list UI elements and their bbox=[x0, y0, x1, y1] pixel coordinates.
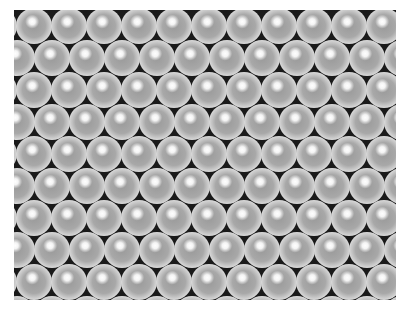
sphere bbox=[139, 40, 175, 76]
sphere bbox=[209, 232, 245, 268]
sphere bbox=[174, 104, 210, 140]
sphere bbox=[191, 200, 227, 236]
sphere bbox=[279, 232, 315, 268]
sphere bbox=[14, 232, 35, 268]
sphere bbox=[384, 104, 396, 140]
sphere bbox=[279, 168, 315, 204]
sphere bbox=[16, 264, 52, 300]
sphere bbox=[104, 104, 140, 140]
sphere bbox=[209, 40, 245, 76]
sphere bbox=[209, 104, 245, 140]
sphere bbox=[226, 264, 262, 300]
sphere bbox=[34, 168, 70, 204]
sphere bbox=[86, 10, 122, 44]
sphere bbox=[366, 264, 396, 300]
sphere bbox=[34, 232, 70, 268]
sphere bbox=[226, 200, 262, 236]
sphere bbox=[244, 104, 280, 140]
sphere bbox=[191, 10, 227, 44]
sphere bbox=[279, 40, 315, 76]
sphere bbox=[51, 72, 87, 108]
sphere bbox=[314, 232, 350, 268]
sphere bbox=[261, 200, 297, 236]
sphere bbox=[86, 264, 122, 300]
sphere bbox=[261, 136, 297, 172]
sphere bbox=[34, 104, 70, 140]
sphere bbox=[174, 168, 210, 204]
sphere bbox=[51, 136, 87, 172]
sphere bbox=[384, 168, 396, 204]
sphere bbox=[156, 200, 192, 236]
sphere bbox=[366, 200, 396, 236]
sphere bbox=[121, 264, 157, 300]
sphere bbox=[191, 136, 227, 172]
sphere bbox=[331, 10, 367, 44]
sphere bbox=[244, 40, 280, 76]
sphere bbox=[156, 136, 192, 172]
sphere bbox=[16, 72, 52, 108]
sphere bbox=[296, 200, 332, 236]
sphere bbox=[226, 72, 262, 108]
sphere bbox=[86, 136, 122, 172]
sphere bbox=[296, 72, 332, 108]
sphere bbox=[314, 168, 350, 204]
sphere bbox=[16, 136, 52, 172]
sphere bbox=[296, 264, 332, 300]
sphere bbox=[209, 168, 245, 204]
sphere bbox=[121, 136, 157, 172]
sphere bbox=[244, 168, 280, 204]
sphere bbox=[51, 200, 87, 236]
sphere bbox=[16, 200, 52, 236]
sphere bbox=[174, 40, 210, 76]
sphere bbox=[104, 40, 140, 76]
sphere bbox=[349, 40, 385, 76]
sphere bbox=[314, 104, 350, 140]
sphere bbox=[331, 136, 367, 172]
sphere bbox=[34, 40, 70, 76]
sphere bbox=[331, 200, 367, 236]
sphere bbox=[261, 10, 297, 44]
pearl-spheres-photo bbox=[14, 10, 396, 300]
sphere bbox=[331, 264, 367, 300]
sphere bbox=[174, 232, 210, 268]
sphere bbox=[261, 72, 297, 108]
sphere bbox=[366, 10, 396, 44]
sphere bbox=[86, 200, 122, 236]
sphere bbox=[156, 10, 192, 44]
sphere bbox=[139, 232, 175, 268]
sphere bbox=[226, 136, 262, 172]
sphere bbox=[16, 10, 52, 44]
sphere bbox=[104, 232, 140, 268]
sphere bbox=[69, 168, 105, 204]
sphere bbox=[156, 72, 192, 108]
sphere bbox=[51, 264, 87, 300]
sphere bbox=[139, 168, 175, 204]
sphere bbox=[226, 10, 262, 44]
sphere bbox=[314, 40, 350, 76]
sphere bbox=[349, 232, 385, 268]
sphere bbox=[14, 40, 35, 76]
sphere bbox=[349, 104, 385, 140]
sphere bbox=[296, 10, 332, 44]
sphere bbox=[384, 40, 396, 76]
sphere bbox=[279, 104, 315, 140]
sphere bbox=[86, 72, 122, 108]
sphere bbox=[191, 264, 227, 300]
sphere bbox=[69, 104, 105, 140]
sphere bbox=[139, 104, 175, 140]
sphere bbox=[244, 232, 280, 268]
sphere bbox=[331, 72, 367, 108]
sphere bbox=[296, 136, 332, 172]
sphere bbox=[384, 232, 396, 268]
sphere bbox=[366, 72, 396, 108]
sphere bbox=[69, 40, 105, 76]
sphere bbox=[104, 168, 140, 204]
sphere bbox=[349, 168, 385, 204]
sphere bbox=[51, 10, 87, 44]
sphere bbox=[121, 10, 157, 44]
sphere bbox=[14, 104, 35, 140]
sphere bbox=[121, 72, 157, 108]
sphere bbox=[14, 168, 35, 204]
sphere bbox=[261, 264, 297, 300]
sphere bbox=[156, 264, 192, 300]
